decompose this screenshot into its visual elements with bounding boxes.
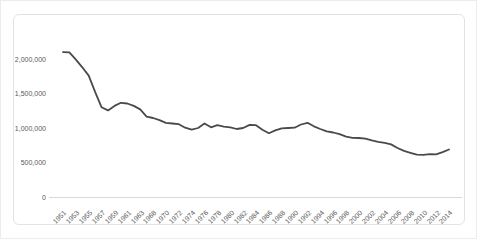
- data-series-line: [63, 52, 449, 155]
- y-axis-tick-label: 1,500,000: [1, 89, 46, 98]
- chart-screenshot: 0500,0001,000,0001,500,0002,000,000 1951…: [0, 0, 477, 239]
- y-axis-tick-label: 1,000,000: [1, 124, 46, 133]
- y-axis-tick-label: 2,000,000: [1, 55, 46, 64]
- y-axis-tick-label: 500,000: [1, 158, 46, 167]
